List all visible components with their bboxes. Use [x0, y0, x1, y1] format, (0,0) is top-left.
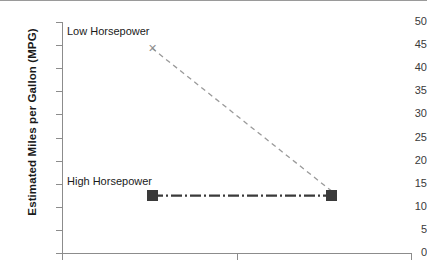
- mpg-interaction-plot: Estimated Miles per Gallon (MPG) 50 45 4…: [0, 0, 427, 265]
- high-horsepower-marker-left: [147, 190, 158, 201]
- low-horsepower-marker-left: ✕: [148, 44, 157, 53]
- high-horsepower-label: High Horsepower: [67, 176, 152, 187]
- high-horsepower-marker-right: [326, 190, 337, 201]
- low-horsepower-label: Low Horsepower: [67, 26, 150, 37]
- low-horsepower-line: [152, 48, 331, 190]
- series-lines: [0, 0, 427, 265]
